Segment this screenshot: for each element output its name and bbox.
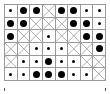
cross-icon: [68, 43, 80, 55]
cross-icon: [68, 30, 80, 42]
small-dot-icon: [22, 73, 25, 76]
cross-icon: [18, 43, 30, 55]
large-dot-icon: [96, 33, 103, 40]
grid-cell: [81, 18, 94, 31]
large-dot-icon: [58, 71, 65, 78]
grid-cell: [93, 5, 106, 18]
small-dot-icon: [35, 60, 38, 63]
grid-cell: [68, 18, 81, 31]
small-dot-icon: [60, 60, 63, 63]
grid-cell: [18, 68, 31, 81]
small-dot-icon: [72, 60, 75, 63]
grid-cell: [18, 56, 31, 69]
large-dot-icon: [96, 45, 103, 52]
large-dot-icon: [20, 7, 27, 14]
large-dot-icon: [45, 58, 52, 65]
grid-cell: [18, 5, 31, 18]
small-dot-icon: [85, 9, 88, 12]
small-dot-icon: [47, 35, 50, 38]
grid-cell: [43, 18, 56, 31]
large-dot-icon: [70, 20, 77, 27]
cross-icon: [93, 68, 105, 80]
large-dot-icon: [20, 20, 27, 27]
cross-icon: [56, 18, 68, 30]
grid-cell: [5, 68, 18, 81]
grid-cell: [81, 5, 94, 18]
grid-cell: [56, 56, 69, 69]
large-dot-icon: [33, 7, 40, 14]
small-dot-icon: [35, 47, 38, 50]
grid-cell: [56, 5, 69, 18]
grid-cell: [93, 68, 106, 81]
grid-cell: [18, 18, 31, 31]
grid-cell: [43, 56, 56, 69]
small-dot-icon: [85, 73, 88, 76]
large-dot-icon: [83, 20, 90, 27]
grid-cell: [5, 30, 18, 43]
cross-icon: [5, 56, 17, 68]
grid-cell: [43, 30, 56, 43]
grid-cell: [68, 5, 81, 18]
grid-cell: [5, 5, 18, 18]
small-dot-icon: [22, 60, 25, 63]
grid-cell: [30, 68, 43, 81]
grid-cell: [93, 18, 106, 31]
grid-cell: [56, 68, 69, 81]
dot-cross-grid: [4, 4, 106, 81]
tick-mark: [4, 88, 5, 91]
large-dot-icon: [33, 71, 40, 78]
grid-cell: [56, 18, 69, 31]
cross-icon: [43, 18, 55, 30]
grid-cell: [43, 5, 56, 18]
grid-cell: [56, 30, 69, 43]
small-dot-icon: [98, 22, 101, 25]
cross-icon: [81, 56, 93, 68]
grid-cell: [81, 43, 94, 56]
small-dot-icon: [9, 73, 12, 76]
grid-cell: [30, 18, 43, 31]
grid-cell: [93, 56, 106, 69]
grid-cell: [5, 56, 18, 69]
small-dot-icon: [60, 47, 63, 50]
grid-cell: [43, 43, 56, 56]
grid-cell: [68, 68, 81, 81]
grid-cell: [68, 43, 81, 56]
grid-cell: [93, 43, 106, 56]
grid-cell: [56, 43, 69, 56]
small-dot-icon: [72, 73, 75, 76]
grid-cell: [30, 56, 43, 69]
small-dot-icon: [9, 9, 12, 12]
grid-cell: [18, 43, 31, 56]
cross-icon: [30, 18, 42, 30]
cross-icon: [43, 5, 55, 17]
tick-mark: [105, 88, 106, 91]
large-dot-icon: [45, 71, 52, 78]
grid-cell: [30, 5, 43, 18]
grid-cell: [5, 18, 18, 31]
large-dot-icon: [70, 7, 77, 14]
cross-icon: [18, 30, 30, 42]
grid-cell: [43, 68, 56, 81]
grid-cell: [68, 56, 81, 69]
cross-icon: [81, 43, 93, 55]
cross-icon: [30, 30, 42, 42]
large-dot-icon: [7, 33, 14, 40]
cross-icon: [93, 56, 105, 68]
cross-icon: [56, 30, 68, 42]
small-dot-icon: [47, 47, 50, 50]
large-dot-icon: [7, 20, 14, 27]
grid-cell: [81, 56, 94, 69]
large-dot-icon: [83, 33, 90, 40]
grid-cell: [5, 43, 18, 56]
grid-cell: [18, 30, 31, 43]
grid-cell: [30, 43, 43, 56]
grid-cell: [68, 30, 81, 43]
cross-icon: [5, 43, 17, 55]
grid-cell: [81, 30, 94, 43]
grid-cell: [30, 30, 43, 43]
grid-cell: [93, 30, 106, 43]
large-dot-icon: [58, 7, 65, 14]
small-dot-icon: [98, 9, 101, 12]
grid-cell: [81, 68, 94, 81]
